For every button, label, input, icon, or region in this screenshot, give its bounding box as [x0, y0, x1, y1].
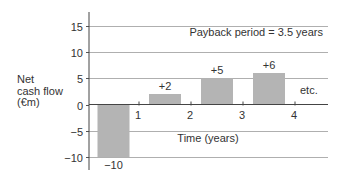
y-tick-label: −10 — [64, 152, 83, 164]
y-tick-label: −5 — [70, 126, 83, 138]
x-axis-title: Time (years) — [177, 132, 238, 144]
bar — [98, 105, 130, 158]
x-tick-label: 2 — [187, 109, 193, 121]
y-tick-label: 0 — [77, 100, 83, 112]
y-axis-title-line-3: (€m) — [17, 97, 63, 109]
y-axis-title: Net cash flow (€m) — [17, 74, 63, 109]
payback-annotation: Payback period = 3.5 years — [189, 26, 323, 38]
etc-annotation: etc. — [300, 84, 318, 96]
x-tick-label: 4 — [291, 109, 297, 121]
y-axis-title-line-1: Net — [17, 74, 63, 86]
bar-value-label: +2 — [159, 80, 172, 92]
x-tick-label: 3 — [239, 109, 245, 121]
bar-value-label: +5 — [211, 64, 224, 76]
bar — [201, 78, 233, 104]
x-tick-label: 1 — [135, 109, 141, 121]
bar — [253, 73, 285, 105]
y-tick-label: 15 — [71, 21, 83, 33]
bar-value-label: −10 — [104, 159, 123, 171]
y-tick-label: 10 — [71, 47, 83, 59]
bar — [149, 94, 181, 105]
y-tick-label: 5 — [77, 73, 83, 85]
bar-value-label: +6 — [263, 59, 276, 71]
